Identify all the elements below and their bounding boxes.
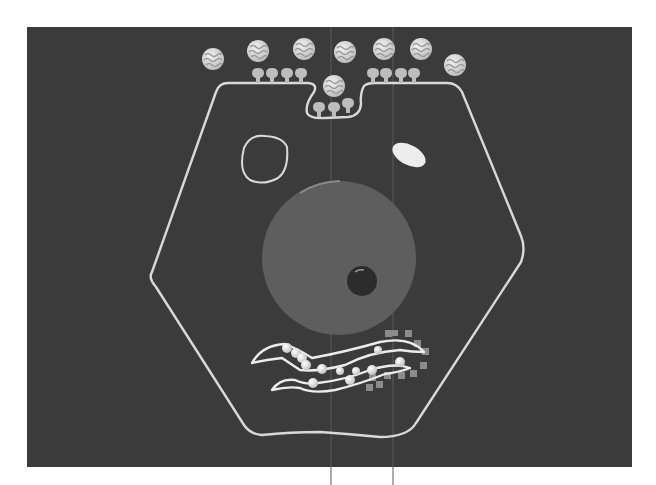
cell-diagram: Receptor-mediated endocytosis in a cell [0, 0, 656, 485]
nucleus [262, 181, 416, 335]
extracellular-ligands [202, 38, 466, 76]
nucleolus [347, 266, 377, 296]
internalized-ligand [323, 75, 345, 97]
cell-illustration [0, 0, 656, 485]
vacuole-outline [242, 136, 287, 183]
white-vesicle [388, 138, 429, 173]
